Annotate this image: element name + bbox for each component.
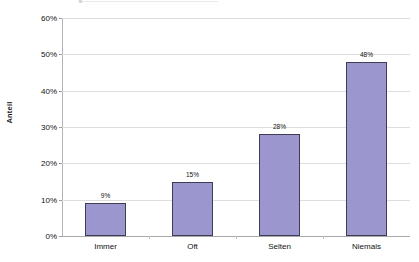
- bar-niemals[interactable]: [346, 62, 387, 236]
- y-tick-mark: [59, 127, 62, 128]
- y-tick-label: 40%: [41, 86, 57, 95]
- category-separator-tick: [149, 236, 150, 239]
- y-tick-mark: [59, 54, 62, 55]
- y-tick-mark: [59, 18, 62, 19]
- bar-value-label: 9%: [101, 192, 110, 199]
- bar-value-label: 15%: [186, 171, 199, 178]
- x-axis-label: Oft: [187, 242, 198, 251]
- bar-immer[interactable]: [85, 203, 126, 236]
- cropped-top-edge: [78, 1, 218, 2]
- gridline: [62, 54, 410, 55]
- y-tick-mark: [59, 200, 62, 201]
- x-axis-label: Immer: [94, 242, 117, 251]
- plot-area: 0%10%20%30%40%50%60%9%15%28%48%: [62, 18, 410, 236]
- bar-oft[interactable]: [172, 182, 213, 237]
- bar-chart: Anteil 0%10%20%30%40%50%60%9%15%28%48% I…: [0, 0, 419, 262]
- bar-selten[interactable]: [259, 134, 300, 236]
- y-tick-mark: [59, 163, 62, 164]
- y-tick-mark: [59, 91, 62, 92]
- y-tick-mark: [59, 236, 62, 237]
- x-axis-label: Selten: [268, 242, 291, 251]
- y-tick-label: 10%: [41, 195, 57, 204]
- y-tick-label: 50%: [41, 50, 57, 59]
- y-tick-label: 30%: [41, 123, 57, 132]
- category-separator-tick: [323, 236, 324, 239]
- bar-value-label: 28%: [273, 123, 286, 130]
- cropped-top-marker: [79, 0, 82, 3]
- y-tick-label: 20%: [41, 159, 57, 168]
- y-axis-title: Anteil: [5, 91, 14, 135]
- y-tick-label: 0%: [45, 232, 57, 241]
- x-axis-label: Niemals: [352, 242, 381, 251]
- category-separator-tick: [236, 236, 237, 239]
- bar-value-label: 48%: [360, 51, 373, 58]
- y-tick-label: 60%: [41, 14, 57, 23]
- gridline: [62, 18, 410, 19]
